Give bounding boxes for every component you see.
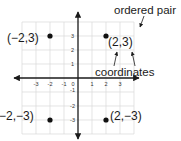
x-tick: 2 bbox=[104, 81, 107, 87]
point-label: (2,−3) bbox=[110, 109, 142, 123]
x-tick: 1 bbox=[90, 81, 93, 87]
ordered-pair-annotation: ordered pair bbox=[114, 4, 176, 16]
ordered-pair-pointer bbox=[140, 16, 144, 27]
y-tick: 1 bbox=[71, 61, 74, 67]
point-label: (2,3) bbox=[108, 35, 133, 49]
y-tick: 3 bbox=[71, 33, 74, 39]
y-tick: 2 bbox=[71, 47, 74, 53]
point-label: (−2,−3) bbox=[0, 109, 34, 123]
y-tick: -3 bbox=[70, 117, 75, 123]
x-tick: -2 bbox=[48, 81, 53, 87]
y-tick: -1 bbox=[70, 87, 75, 93]
point-neg2-3 bbox=[47, 33, 52, 38]
x-tick: -3 bbox=[34, 81, 39, 87]
x-tick: -1 bbox=[62, 81, 67, 87]
point-neg2-neg3 bbox=[47, 117, 52, 122]
coordinate-plane: -3 -2 -1 0 1 2 3 3 2 1 -1 -2 -3 (−2,3) (… bbox=[0, 0, 181, 141]
point-label: (−2,3) bbox=[7, 31, 39, 45]
point-2-neg3 bbox=[103, 117, 108, 122]
coordinates-annotation: coordinates bbox=[95, 66, 155, 78]
x-tick: 3 bbox=[118, 81, 121, 87]
y-tick: -2 bbox=[70, 103, 75, 109]
